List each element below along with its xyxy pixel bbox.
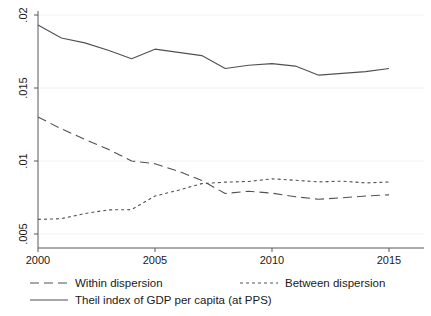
x-tick-label-3: 2015 bbox=[377, 254, 401, 266]
x-tick-label-1: 2005 bbox=[143, 254, 167, 266]
chart-container: .005.01.015.02 2000200520102015 Within d… bbox=[0, 0, 431, 316]
axes-group bbox=[34, 11, 424, 252]
line-chart: .005.01.015.02 2000200520102015 Within d… bbox=[0, 0, 431, 316]
series-line-1 bbox=[38, 117, 389, 199]
x-axis-tick-labels: 2000200520102015 bbox=[26, 254, 401, 266]
y-tick-label-2: .015 bbox=[17, 77, 29, 98]
gridlines-group bbox=[38, 15, 424, 234]
legend-label-0: Within dispersion bbox=[75, 277, 163, 289]
y-tick-label-0: .005 bbox=[17, 223, 29, 244]
x-tick-label-2: 2010 bbox=[260, 254, 284, 266]
x-tick-label-0: 2000 bbox=[26, 254, 50, 266]
legend-label-1: Between dispersion bbox=[285, 277, 385, 289]
chart-legend: Within dispersionBetween dispersionTheil… bbox=[30, 277, 385, 306]
series-line-2 bbox=[38, 179, 389, 220]
y-axis-tick-labels: .005.01.015.02 bbox=[17, 7, 29, 244]
x-tick-marks bbox=[38, 248, 389, 252]
y-tick-label-3: .02 bbox=[17, 7, 29, 22]
y-tick-marks bbox=[34, 15, 38, 234]
y-tick-label-1: .01 bbox=[17, 153, 29, 168]
series-line-0 bbox=[38, 25, 389, 75]
legend-label-2: Theil index of GDP per capita (at PPS) bbox=[75, 294, 272, 306]
data-series-group bbox=[38, 25, 389, 219]
